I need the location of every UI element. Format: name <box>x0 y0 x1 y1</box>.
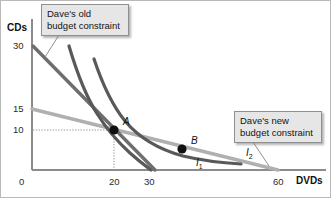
data-point-b <box>177 144 186 153</box>
curve-label-i1: I1 <box>196 158 203 170</box>
callout-new-line1: Dave's new <box>240 115 317 127</box>
point-label-b: B <box>191 136 198 146</box>
x-tick-30: 30 <box>144 177 155 187</box>
point-label-a: A <box>123 117 130 127</box>
curve-label-i1-subscript: 1 <box>199 163 203 170</box>
x-tick-20: 20 <box>109 177 120 187</box>
x-axis-label: DVDs <box>296 176 323 186</box>
curve-label-i2-subscript: 2 <box>249 153 253 160</box>
callout-old-line2: budget constraint <box>47 20 124 32</box>
callout-old-line1: Dave's old <box>47 8 124 20</box>
callout-new-line2: budget constraint <box>240 127 317 139</box>
callout-old-budget-constraint: Dave's old budget constraint <box>41 4 129 36</box>
y-axis-label: CDs <box>7 23 27 33</box>
leader-line-old-constraint <box>45 35 59 57</box>
y-tick-0: 0 <box>19 177 24 187</box>
leader-line-new-constraint <box>253 142 269 166</box>
y-tick-15: 15 <box>13 104 24 114</box>
data-point-a <box>109 125 118 134</box>
x-tick-60: 60 <box>273 177 284 187</box>
y-tick-30: 30 <box>13 41 24 51</box>
y-tick-10: 10 <box>13 125 24 135</box>
curve-label-i2: I2 <box>246 148 253 160</box>
figure-container: CDs 30 15 10 0 20 30 60 DVDs A B I1 I2 D… <box>0 0 331 198</box>
indifference-curve-i2 <box>94 59 241 164</box>
callout-new-budget-constraint: Dave's new budget constraint <box>234 111 322 143</box>
